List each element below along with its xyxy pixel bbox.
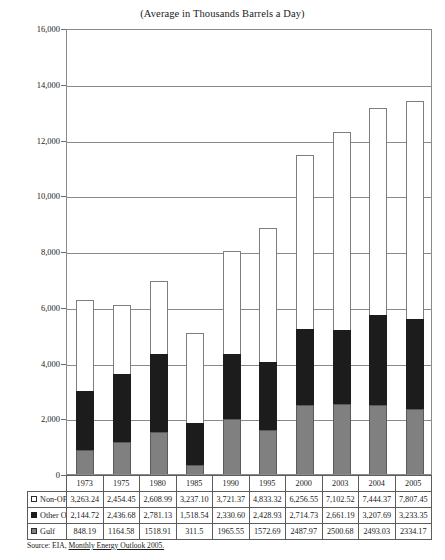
table-value-cell: 2,436.68 <box>103 508 140 524</box>
table-value-cell: 2,661.19 <box>322 508 359 524</box>
bar-segment-gulf[interactable] <box>113 442 131 474</box>
source-note: Source: EIA, Monthly Energy Outlook 2005… <box>27 541 164 550</box>
bar-segment-other-opec[interactable] <box>333 330 351 404</box>
data-table-wrap: 1973197519801985199019952000200320042005… <box>27 475 432 540</box>
y-axis-tick-label: 12,000 <box>2 136 60 146</box>
bar-segment-non-opec[interactable] <box>333 132 351 330</box>
bar-column-1973[interactable] <box>76 300 94 474</box>
table-value-cell: 6,256.55 <box>286 492 323 508</box>
table-value-cell: 2,781.13 <box>140 508 177 524</box>
bar-column-1985[interactable] <box>186 333 204 474</box>
bar-segment-gulf[interactable] <box>186 465 204 474</box>
bar-segment-other-opec[interactable] <box>186 423 204 465</box>
y-axis-tick-label: 16,000 <box>2 24 60 34</box>
table-year-header: 1980 <box>140 476 177 492</box>
table-value-cell: 3,237.10 <box>176 492 213 508</box>
table-year-header: 2000 <box>286 476 323 492</box>
bar-column-1990[interactable] <box>223 251 241 474</box>
table-value-cell: 2493.03 <box>359 524 396 540</box>
table-value-cell: 311.5 <box>176 524 213 540</box>
y-axis-tick-label: 2,000 <box>2 414 60 424</box>
bar-segment-gulf[interactable] <box>150 432 168 474</box>
bar-segment-gulf[interactable] <box>369 405 387 474</box>
bar-segment-non-opec[interactable] <box>296 155 314 329</box>
bar-segment-other-opec[interactable] <box>259 362 277 430</box>
bar-segment-non-opec[interactable] <box>223 251 241 355</box>
bars-layer <box>67 30 431 474</box>
table-value-cell: 3,207.69 <box>359 508 396 524</box>
bar-segment-other-opec[interactable] <box>369 315 387 404</box>
table-corner-cell <box>28 476 67 492</box>
table-value-cell: 2487.97 <box>286 524 323 540</box>
bar-segment-non-opec[interactable] <box>150 281 168 354</box>
bar-segment-non-opec[interactable] <box>406 101 424 319</box>
table-value-cell: 2,428.93 <box>249 508 286 524</box>
bar-segment-non-opec[interactable] <box>186 333 204 423</box>
table-value-cell: 2500.68 <box>322 524 359 540</box>
y-axis-tick-label: 4,000 <box>2 359 60 369</box>
bar-column-1995[interactable] <box>259 228 277 474</box>
table-value-cell: 1965.55 <box>213 524 250 540</box>
bar-column-2000[interactable] <box>296 155 314 474</box>
bar-segment-other-opec[interactable] <box>150 354 168 432</box>
bar-segment-other-opec[interactable] <box>113 374 131 442</box>
source-publication: Monthly Energy Outlook 2005. <box>69 541 165 550</box>
bar-segment-other-opec[interactable] <box>406 319 424 409</box>
series-label-text: Non-OPEC <box>40 495 67 504</box>
table-year-header: 2004 <box>359 476 396 492</box>
bar-column-2005[interactable] <box>406 101 424 474</box>
bar-segment-gulf[interactable] <box>333 404 351 474</box>
table-year-header: 1995 <box>249 476 286 492</box>
data-table: 1973197519801985199019952000200320042005… <box>27 475 432 540</box>
series-label-text: Other OPEC <box>40 511 67 520</box>
table-year-header: 2005 <box>395 476 432 492</box>
bar-segment-other-opec[interactable] <box>76 391 94 451</box>
bar-segment-gulf[interactable] <box>406 409 424 474</box>
table-value-cell: 2,608.99 <box>140 492 177 508</box>
bar-column-1980[interactable] <box>150 281 168 474</box>
table-value-cell: 1572.69 <box>249 524 286 540</box>
series-label-cell: Gulf <box>28 524 67 540</box>
table-year-header: 1973 <box>67 476 104 492</box>
source-prefix: Source: EIA, <box>27 541 69 550</box>
series-label-text: Gulf <box>40 527 55 536</box>
table-value-cell: 1164.58 <box>103 524 140 540</box>
y-axis-tick-label: 8,000 <box>2 247 60 257</box>
table-row: Gulf848.191164.581518.91311.51965.551572… <box>28 524 432 540</box>
y-axis-tick-label: 14,000 <box>2 80 60 90</box>
table-value-cell: 4,833.32 <box>249 492 286 508</box>
table-row: Non-OPEC3,263.242,454.452,608.993,237.10… <box>28 492 432 508</box>
table-value-cell: 848.19 <box>67 524 104 540</box>
table-body: Non-OPEC3,263.242,454.452,608.993,237.10… <box>28 492 432 540</box>
bar-segment-non-opec[interactable] <box>113 305 131 373</box>
bar-segment-non-opec[interactable] <box>259 228 277 363</box>
bar-column-1975[interactable] <box>113 305 131 474</box>
y-axis-tick-label: 6,000 <box>2 303 60 313</box>
table-value-cell: 2,330.60 <box>213 508 250 524</box>
bar-column-2003[interactable] <box>333 132 351 474</box>
plot-area <box>66 29 432 475</box>
bar-column-2004[interactable] <box>369 108 387 474</box>
bar-segment-gulf[interactable] <box>223 419 241 474</box>
bar-segment-non-opec[interactable] <box>76 300 94 391</box>
table-value-cell: 3,263.24 <box>67 492 104 508</box>
table-value-cell: 2,714.73 <box>286 508 323 524</box>
table-value-cell: 1,518.54 <box>176 508 213 524</box>
table-value-cell: 1518.91 <box>140 524 177 540</box>
bar-segment-non-opec[interactable] <box>369 108 387 316</box>
table-value-cell: 3,721.37 <box>213 492 250 508</box>
bar-segment-other-opec[interactable] <box>296 329 314 405</box>
bar-segment-gulf[interactable] <box>259 430 277 474</box>
bar-segment-gulf[interactable] <box>76 450 94 474</box>
gray-square-icon <box>31 528 37 534</box>
table-value-cell: 7,102.52 <box>322 492 359 508</box>
table-value-cell: 7,444.37 <box>359 492 396 508</box>
bar-segment-gulf[interactable] <box>296 405 314 474</box>
white-square-icon <box>31 496 37 502</box>
bar-segment-other-opec[interactable] <box>223 354 241 419</box>
table-value-cell: 2334.17 <box>395 524 432 540</box>
table-value-cell: 3,233.35 <box>395 508 432 524</box>
y-axis-tick-label: 10,000 <box>2 191 60 201</box>
table-row: Other OPEC2,144.722,436.682,781.131,518.… <box>28 508 432 524</box>
chart-page: (Average in Thousands Barrels a Day) 02,… <box>0 0 445 560</box>
